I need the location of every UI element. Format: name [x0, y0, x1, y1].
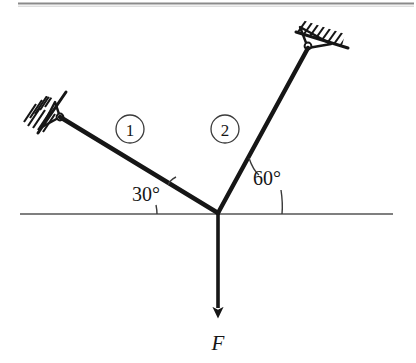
angle-30-arc-lower [156, 205, 157, 214]
top-border-rule [18, 4, 414, 7]
force-label-F: F [211, 331, 225, 355]
statics-diagram-figure: 1 2 30° 60° F [0, 0, 416, 363]
diagram-canvas: 1 2 30° 60° F [0, 0, 416, 363]
angle-30-label: 30° [132, 183, 160, 205]
member-label-2-text: 2 [221, 121, 230, 140]
pin-support-left [24, 89, 66, 133]
angle-60-arc-lower [281, 190, 282, 214]
member-label-1-text: 1 [126, 121, 135, 140]
pin-support-right [296, 18, 350, 49]
member-label-1: 1 [116, 115, 144, 143]
angle-60-label: 60° [253, 167, 281, 189]
member-label-2: 2 [211, 115, 239, 143]
